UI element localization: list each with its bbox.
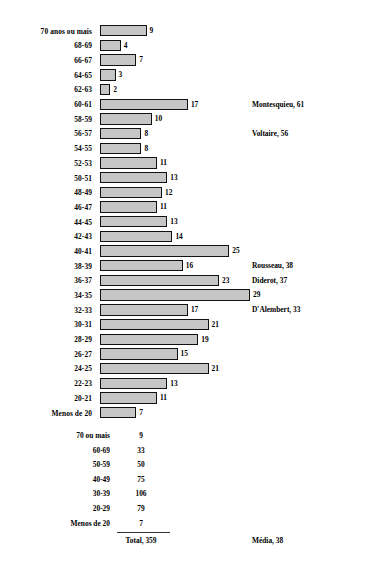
bar-value-label: 7 — [139, 56, 143, 63]
bar — [100, 113, 152, 124]
bar-wrapper: 8 — [100, 143, 148, 154]
bar-row: 42-4314 — [0, 230, 368, 245]
bar — [100, 216, 167, 227]
summary-row: 30-39106 — [0, 490, 368, 505]
bar-category-label: 56-57 — [0, 130, 92, 137]
bar — [100, 84, 110, 95]
bar-row: Menos de 207 — [0, 406, 368, 421]
bar-value-label: 13 — [170, 380, 177, 387]
summary-row: 60-6933 — [0, 447, 368, 462]
figure-root: 70 anos ou mais968-69466-67764-65362-632… — [0, 0, 368, 568]
bar-value-label: 14 — [175, 233, 182, 240]
bar-value-label: 13 — [170, 218, 177, 225]
summary-row-label: 50-59 — [0, 461, 110, 468]
bar-wrapper: 16 — [100, 260, 193, 271]
bar-wrapper: 8 — [100, 128, 148, 139]
bar-wrapper: 2 — [100, 84, 117, 95]
bar — [100, 289, 250, 300]
bar — [100, 187, 162, 198]
bar-value-label: 11 — [160, 394, 167, 401]
bar-row: 36-3723 — [0, 274, 368, 289]
summary-mean-label: Média, 38 — [252, 537, 283, 544]
bar-category-label: 24-25 — [0, 365, 92, 372]
bar — [100, 143, 141, 154]
bar-category-label: 48-49 — [0, 189, 92, 196]
summary-row-label: 40-49 — [0, 476, 110, 483]
bar-row: 58-5910 — [0, 112, 368, 127]
summary-row: 40-4975 — [0, 476, 368, 491]
bar-category-label: 62-63 — [0, 86, 92, 93]
bar-row: 44-4513 — [0, 215, 368, 230]
bar-category-label: 38-39 — [0, 263, 92, 270]
bar — [100, 231, 172, 242]
bar-wrapper: 7 — [100, 407, 143, 418]
summary-row-label: 30-39 — [0, 490, 110, 497]
bar-wrapper: 23 — [100, 275, 229, 286]
bar-value-label: 21 — [212, 365, 219, 372]
bar-category-label: 66-67 — [0, 57, 92, 64]
bar-value-label: 19 — [201, 336, 208, 343]
summary-row-label: 20-29 — [0, 505, 110, 512]
bar-value-label: 15 — [181, 350, 188, 357]
bar-row: 68-694 — [0, 39, 368, 54]
bar-value-label: 3 — [119, 71, 123, 78]
summary-row: 50-5950 — [0, 461, 368, 476]
bar-wrapper: 25 — [100, 245, 240, 256]
bar-row: 28-2919 — [0, 332, 368, 347]
bar-value-label: 17 — [191, 306, 198, 313]
bar-wrapper: 14 — [100, 231, 183, 242]
bar — [100, 407, 136, 418]
bar-row: 62-632 — [0, 83, 368, 98]
bar-category-label: 52-53 — [0, 160, 92, 167]
chart-annotation: Voltaire, 56 — [252, 130, 288, 137]
bar — [100, 275, 219, 286]
bar-value-label: 17 — [191, 101, 198, 108]
bar-wrapper: 11 — [100, 201, 167, 212]
bar-wrapper: 7 — [100, 54, 143, 65]
bar-category-label: Menos de 20 — [0, 410, 92, 417]
chart-annotation: Rousseau, 38 — [252, 262, 293, 269]
bar-wrapper: 10 — [100, 113, 162, 124]
bar-row: 48-4912 — [0, 186, 368, 201]
bar-value-label: 11 — [160, 159, 167, 166]
chart-annotation: Diderot, 37 — [252, 277, 287, 284]
summary-row-label: 70 ou mais — [0, 432, 110, 439]
bar-chart: 70 anos ou mais968-69466-67764-65362-632… — [0, 24, 368, 414]
bar-category-label: 60-61 — [0, 101, 92, 108]
bar-value-label: 12 — [165, 189, 172, 196]
bar-wrapper: 13 — [100, 172, 178, 183]
bar — [100, 40, 121, 51]
bar-value-label: 8 — [144, 145, 148, 152]
bar-category-label: 20-21 — [0, 395, 92, 402]
bar-category-label: 42-43 — [0, 233, 92, 240]
bar-row: 34-3529 — [0, 288, 368, 303]
bar-value-label: 29 — [253, 291, 260, 298]
summary-row: Menos de 207 — [0, 520, 368, 535]
bar-wrapper: 11 — [100, 392, 167, 403]
bar-wrapper: 17 — [100, 99, 198, 110]
bar-wrapper: 15 — [100, 348, 188, 359]
bar-row: 40-4125 — [0, 244, 368, 259]
bar-wrapper: 17 — [100, 304, 198, 315]
chart-annotation: D'Alembert, 33 — [252, 306, 300, 313]
bar-category-label: 40-41 — [0, 248, 92, 255]
summary-row: 20-2979 — [0, 505, 368, 520]
summary-row-value: 79 — [110, 505, 172, 512]
bar-value-label: 23 — [222, 277, 229, 284]
bar-row: 70 anos ou mais9 — [0, 24, 368, 39]
bar — [100, 157, 157, 168]
bar-row: 22-2313 — [0, 377, 368, 392]
bar-value-label: 21 — [212, 321, 219, 328]
bar-wrapper: 12 — [100, 187, 172, 198]
bar-row: 38-3916 — [0, 259, 368, 274]
bar-category-label: 70 anos ou mais — [0, 28, 92, 35]
summary-row-label: 60-69 — [0, 447, 110, 454]
bar — [100, 319, 209, 330]
summary-table: 70 ou mais960-693350-595040-497530-39106… — [0, 432, 368, 534]
bar-value-label: 11 — [160, 203, 167, 210]
bar-category-label: 58-59 — [0, 116, 92, 123]
bar-value-label: 9 — [150, 27, 154, 34]
bar-wrapper: 13 — [100, 216, 178, 227]
bar-category-label: 30-31 — [0, 321, 92, 328]
bar — [100, 54, 136, 65]
